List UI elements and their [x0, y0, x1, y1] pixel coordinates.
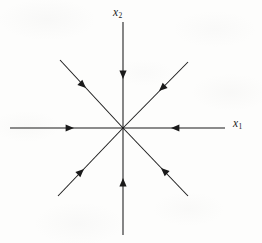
trajectory-ray-lower-right: [123, 128, 188, 196]
x2-axis-label: x2: [113, 7, 122, 20]
x2-axis-label-subscript: 2: [118, 11, 122, 20]
trajectory-ray-upper-left: [60, 60, 123, 128]
trajectory-ray-upper-right: [123, 62, 188, 128]
arrowhead-down-icon: [119, 71, 126, 79]
x1-axis-label-subscript: 1: [238, 122, 242, 131]
arrowhead-left-icon: [171, 124, 179, 131]
trajectory-lines: [10, 22, 225, 235]
arrowhead-right-icon: [66, 124, 74, 131]
x1-axis-label: x1: [233, 118, 242, 131]
phase-portrait-figure: x2 x1: [0, 0, 262, 243]
arrowhead-up-icon: [119, 178, 126, 186]
phase-portrait-canvas: [0, 0, 262, 243]
trajectory-ray-lower-left: [58, 128, 123, 196]
